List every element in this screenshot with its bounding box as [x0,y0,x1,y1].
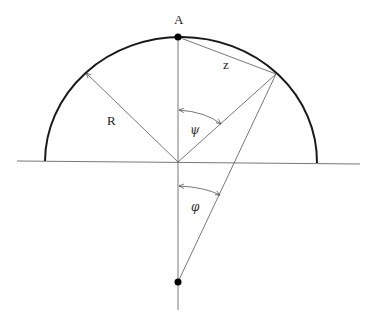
label-a: A [174,12,184,27]
label-phi: φ [191,200,200,214]
phi-angle-arc [179,186,220,195]
semicircle-diagram: A z R ψ φ [0,0,373,323]
radius-to-point [178,74,276,162]
semicircle-arc [45,37,317,163]
point-a-dot [175,34,182,41]
horizontal-baseline [17,161,360,164]
external-line [178,74,276,282]
radius-arrow [86,73,178,162]
psi-angle-arc [179,110,221,124]
label-r: R [107,113,116,128]
label-z: z [223,57,229,72]
label-psi: ψ [190,123,200,137]
external-point-dot [175,279,182,286]
